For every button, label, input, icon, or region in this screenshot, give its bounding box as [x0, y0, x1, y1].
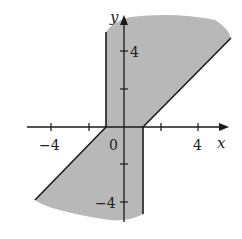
y-tick-label-neg4: −4	[95, 195, 116, 211]
y-tick-label-pos4: 4	[130, 44, 139, 60]
x-tick-label-pos4: 4	[193, 137, 202, 153]
x-tick-label-neg4: −4	[39, 137, 60, 153]
region-plot: y x −4 0 4 4 −4	[0, 0, 242, 239]
x-tick-label-zero: 0	[109, 137, 118, 153]
y-axis-label: y	[109, 8, 119, 26]
x-axis-arrow-icon	[219, 123, 229, 131]
x-axis-label: x	[217, 134, 226, 152]
